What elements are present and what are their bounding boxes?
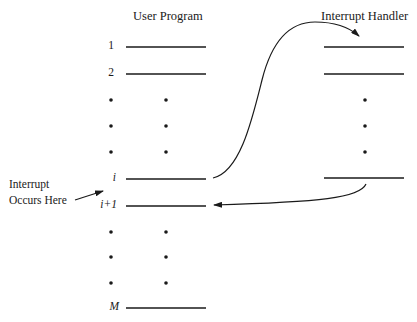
user-program-lines (126, 47, 206, 308)
diagram-graphics (0, 0, 417, 322)
transfer-to-handler-arrow (213, 22, 359, 178)
interrupt-diagram: User Program Interrupt Handler 1 2 i i+1… (0, 0, 417, 322)
user-program-dots (109, 98, 168, 285)
return-to-program-arrow (214, 184, 366, 205)
interrupt-handler-lines (324, 47, 404, 178)
interrupt-handler-dots (363, 98, 367, 154)
annotation-pointer-arrow (75, 191, 103, 200)
